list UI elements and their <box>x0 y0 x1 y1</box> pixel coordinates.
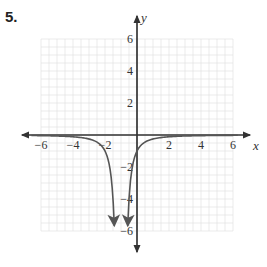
function-graph: xy−6−4−2246642−2−4−6 <box>0 0 267 267</box>
y-axis-label: y <box>139 10 147 25</box>
x-tick-label: −6 <box>35 138 48 152</box>
y-tick-label: 6 <box>127 32 133 46</box>
x-tick-label: 6 <box>230 138 236 152</box>
x-tick-label: −4 <box>67 138 80 152</box>
y-tick-label: 4 <box>127 64 133 78</box>
y-tick-label: 2 <box>127 96 133 110</box>
y-tick-label: −6 <box>120 224 133 238</box>
y-tick-label: −4 <box>120 192 133 206</box>
curve-right-branch <box>128 135 238 225</box>
x-tick-label: 4 <box>198 138 204 152</box>
x-tick-label: 2 <box>166 138 172 152</box>
x-axis-label: x <box>252 138 259 153</box>
